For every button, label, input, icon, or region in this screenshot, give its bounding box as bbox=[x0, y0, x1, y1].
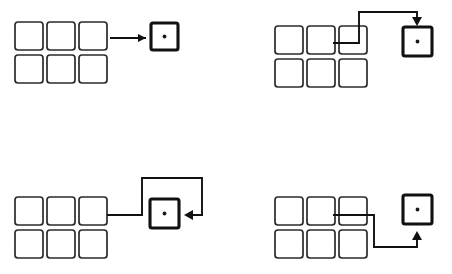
grid-cell[interactable] bbox=[275, 230, 303, 258]
center-dot-icon bbox=[163, 35, 167, 39]
grid-bottom-right[interactable] bbox=[275, 197, 367, 258]
grid-cell[interactable] bbox=[307, 26, 335, 54]
grid-cell[interactable] bbox=[79, 230, 107, 258]
grid-cell[interactable] bbox=[339, 197, 367, 225]
panel-top-left[interactable] bbox=[0, 0, 226, 137]
grid-cell[interactable] bbox=[339, 59, 367, 87]
grid-cell[interactable] bbox=[339, 26, 367, 54]
arrow-head-icon bbox=[138, 34, 146, 42]
center-dot-icon bbox=[416, 208, 420, 212]
target-node-bottom-left[interactable] bbox=[150, 199, 179, 228]
grid-cell[interactable] bbox=[47, 197, 75, 225]
grid-cell[interactable] bbox=[307, 59, 335, 87]
grid-cell[interactable] bbox=[15, 22, 43, 50]
connector-top-left[interactable] bbox=[110, 34, 146, 42]
diagram-canvas bbox=[0, 0, 452, 274]
grid-cell[interactable] bbox=[15, 197, 43, 225]
grid-cell[interactable] bbox=[47, 230, 75, 258]
grid-cell[interactable] bbox=[79, 55, 107, 83]
grid-cell[interactable] bbox=[79, 197, 107, 225]
arrow-head-icon bbox=[412, 231, 422, 240]
grid-cell[interactable] bbox=[275, 26, 303, 54]
arrow-head-icon bbox=[412, 17, 422, 26]
arrow-head-icon bbox=[184, 210, 193, 220]
center-dot-icon bbox=[416, 40, 420, 44]
grid-cell[interactable] bbox=[79, 22, 107, 50]
grid-cell[interactable] bbox=[307, 230, 335, 258]
grid-bottom-left[interactable] bbox=[15, 197, 107, 258]
grid-cell[interactable] bbox=[275, 59, 303, 87]
grid-top-right[interactable] bbox=[275, 26, 367, 87]
panel-bottom-left[interactable] bbox=[0, 137, 226, 274]
panel-bottom-left-graphic bbox=[0, 137, 226, 274]
panel-bottom-right[interactable] bbox=[226, 137, 452, 274]
grid-cell[interactable] bbox=[47, 22, 75, 50]
panel-top-right-graphic bbox=[226, 0, 452, 137]
panel-top-left-graphic bbox=[0, 0, 226, 137]
target-node-top-right[interactable] bbox=[403, 27, 432, 56]
target-node-top-left[interactable] bbox=[151, 23, 178, 50]
panel-bottom-right-graphic bbox=[226, 137, 452, 274]
panel-top-right[interactable] bbox=[226, 0, 452, 137]
target-node-bottom-right[interactable] bbox=[403, 195, 432, 224]
center-dot-icon bbox=[163, 212, 167, 216]
grid-cell[interactable] bbox=[307, 197, 335, 225]
grid-cell[interactable] bbox=[339, 230, 367, 258]
grid-top-left[interactable] bbox=[15, 22, 107, 83]
grid-cell[interactable] bbox=[15, 55, 43, 83]
grid-cell[interactable] bbox=[15, 230, 43, 258]
grid-cell[interactable] bbox=[275, 197, 303, 225]
grid-cell[interactable] bbox=[47, 55, 75, 83]
